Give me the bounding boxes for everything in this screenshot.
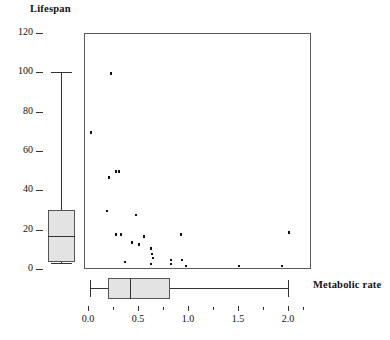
y-tick-label: 60	[0, 144, 33, 155]
box-iqr	[108, 278, 170, 299]
median-line	[48, 236, 75, 237]
scatter-point	[185, 265, 187, 267]
scatter-point	[181, 259, 183, 261]
scatter-point	[106, 210, 108, 212]
y-tick-mark	[36, 151, 43, 152]
x-tick-label: 0.5	[118, 313, 158, 324]
x-tick-label: 0.0	[68, 313, 108, 324]
left-whisker-line	[90, 288, 108, 289]
scatter-point	[108, 176, 110, 178]
scatter-point	[151, 253, 153, 255]
scatter-point	[180, 233, 182, 235]
x-tick-mark	[238, 306, 239, 311]
upper-whisker-line	[61, 72, 62, 210]
scatter-point	[110, 72, 112, 74]
scatter-point	[135, 214, 137, 216]
x-tick-mark-minor	[163, 307, 164, 310]
x-tick-mark	[88, 306, 89, 311]
x-tick-mark-minor	[113, 307, 114, 310]
scatter-point	[152, 257, 154, 259]
x-tick-mark-minor	[303, 307, 304, 310]
scatter-point	[120, 233, 122, 235]
scatter-point	[115, 233, 117, 235]
y-tick-mark	[36, 230, 43, 231]
scatter-point	[170, 263, 172, 265]
x-tick-label: 1.0	[168, 313, 208, 324]
left-whisker-cap	[90, 280, 91, 297]
scatter-point	[150, 247, 152, 249]
scatter-point	[288, 231, 290, 233]
scatter-point	[170, 259, 172, 261]
scatter-point	[150, 263, 152, 265]
x-tick-mark-minor	[263, 307, 264, 310]
y-tick-label: 20	[0, 223, 33, 234]
scatter-point	[90, 131, 92, 133]
right-whisker-line	[170, 288, 288, 289]
right-whisker-cap	[288, 280, 289, 297]
scatter-point	[143, 235, 145, 237]
x-tick-mark	[288, 306, 289, 311]
y-tick-mark	[36, 190, 43, 191]
scatter-point	[118, 170, 120, 172]
x-tick-mark-minor	[213, 307, 214, 310]
y-tick-label: 120	[0, 26, 33, 37]
scatter-plot-area	[84, 33, 311, 269]
upper-whisker-cap	[51, 72, 72, 73]
y-tick-mark	[36, 33, 43, 34]
scatter-point	[281, 265, 283, 267]
scatter-point	[124, 261, 126, 263]
y-tick-mark	[36, 72, 43, 73]
median-line	[130, 278, 131, 299]
scatter-point	[131, 241, 133, 243]
x-axis-title: Metabolic rate	[313, 279, 381, 290]
y-tick-mark	[36, 269, 43, 270]
lower-whisker-cap	[51, 263, 72, 264]
y-axis-title: Lifespan	[30, 3, 71, 14]
scatter-point	[238, 265, 240, 267]
y-tick-label: 80	[0, 105, 33, 116]
y-tick-label: 100	[0, 65, 33, 76]
y-tick-mark	[36, 112, 43, 113]
x-tick-label: 2.0	[268, 313, 308, 324]
y-tick-label: 0	[0, 262, 33, 273]
y-tick-label: 40	[0, 183, 33, 194]
scatter-point	[138, 243, 140, 245]
lifespan-vs-metabolic-rate-figure: Lifespan Metabolic rate 020406080100120 …	[0, 0, 390, 340]
x-tick-mark	[138, 306, 139, 311]
x-tick-label: 1.5	[218, 313, 258, 324]
x-tick-mark	[188, 306, 189, 311]
